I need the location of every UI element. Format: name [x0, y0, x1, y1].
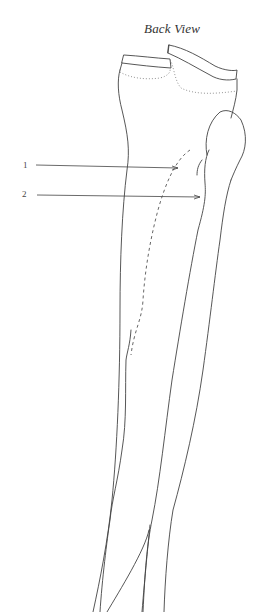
leader-line-2: [37, 195, 200, 199]
fibula: [143, 111, 245, 612]
tibia-plateau: [120, 45, 237, 93]
bone-illustration: [0, 0, 259, 612]
leader-line-1: [36, 165, 178, 170]
tibia-shaft: [93, 70, 237, 612]
